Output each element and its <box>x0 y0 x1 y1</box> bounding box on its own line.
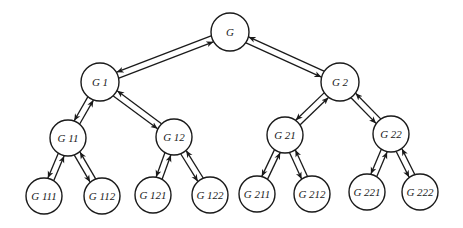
tree-diagram: GG 1G 2G 11G 12G 21G 22G 111G 112G 121G … <box>0 0 463 228</box>
edges-layer <box>48 36 415 182</box>
edge-G112-to-G11 <box>80 152 96 179</box>
node-G212: G 212 <box>294 176 330 212</box>
node-G121: G 121 <box>135 177 171 213</box>
node-label: G 1 <box>92 76 108 88</box>
node-label: G <box>226 26 234 38</box>
node-G211: G 211 <box>239 176 275 212</box>
edge-G1-to-G <box>119 42 213 78</box>
edge-G222-to-G22 <box>402 149 415 175</box>
node-label: G 122 <box>196 189 224 201</box>
edge-G2-to-G <box>249 37 324 71</box>
node-label: G 211 <box>244 188 270 200</box>
edge-G11-to-G112 <box>74 155 90 182</box>
node-G12: G 12 <box>156 119 192 155</box>
edge-G-to-G1 <box>117 36 212 72</box>
node-label: G 121 <box>139 189 166 201</box>
edge-G21-to-G211 <box>262 150 275 177</box>
edge-G12-to-G122 <box>181 154 198 181</box>
node-G21: G 21 <box>267 117 303 153</box>
edge-G1-to-G11 <box>74 97 88 121</box>
node-G122: G 122 <box>192 177 228 213</box>
node-G112: G 112 <box>84 178 120 214</box>
edge-G211-to-G21 <box>268 153 281 180</box>
node-G221: G 221 <box>349 174 385 210</box>
node-label: G 221 <box>353 186 380 198</box>
edge-G22-to-G222 <box>396 152 409 178</box>
node-label: G 212 <box>298 188 326 200</box>
node-G222: G 222 <box>402 174 438 210</box>
node-label: G 112 <box>89 190 116 202</box>
node-G2: G 2 <box>321 63 359 101</box>
edge-G212-to-G21 <box>295 150 307 176</box>
node-G: G <box>211 13 249 51</box>
node-label: G 111 <box>31 190 57 202</box>
node-label: G 21 <box>274 129 296 141</box>
edge-G11-to-G1 <box>80 100 94 124</box>
node-label: G 22 <box>380 128 402 140</box>
node-G11: G 11 <box>50 120 86 156</box>
node-label: G 2 <box>332 76 349 88</box>
edge-G21-to-G212 <box>290 153 302 179</box>
edge-G1-to-G12 <box>113 96 157 129</box>
edge-G-to-G2 <box>246 43 321 77</box>
edge-G12-to-G1 <box>117 91 161 124</box>
edge-G122-to-G12 <box>186 151 203 178</box>
node-G1: G 1 <box>81 63 119 101</box>
node-label: G 11 <box>58 132 79 144</box>
node-G22: G 22 <box>373 116 409 152</box>
node-G111: G 111 <box>26 178 62 214</box>
node-label: G 222 <box>406 186 434 198</box>
node-label: G 12 <box>163 131 185 143</box>
